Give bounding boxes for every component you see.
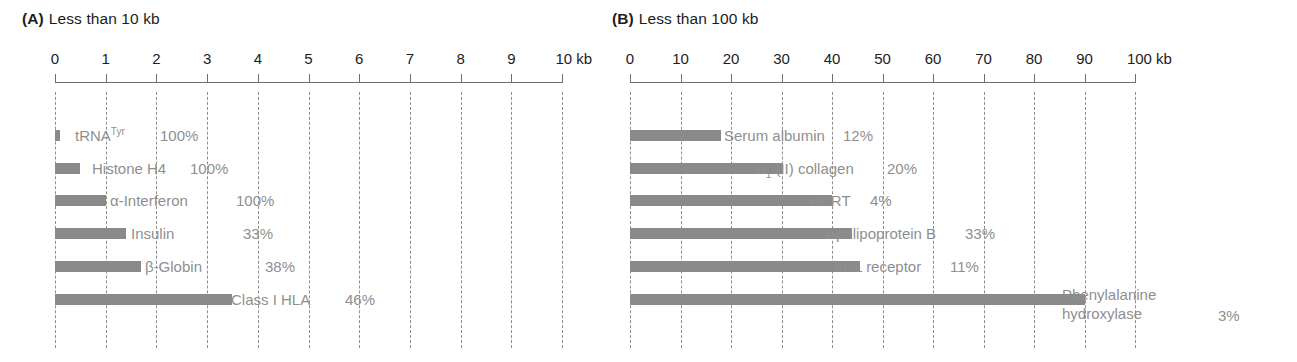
gridline (461, 92, 462, 348)
gridline (933, 92, 934, 348)
x-axis-tick-mark (1135, 74, 1136, 83)
bar-label: Class I HLA (231, 291, 310, 308)
x-axis-tick-label: 30 (773, 50, 790, 67)
x-axis-tick-label: 100 kb (1127, 50, 1172, 67)
bar-percent-label: 100% (190, 160, 228, 177)
x-axis-tick-label: 80 (1026, 50, 1043, 67)
x-axis-tick-label: 70 (975, 50, 992, 67)
x-axis-tick-mark (984, 74, 985, 83)
x-axis-tick-label: 9 (507, 50, 515, 67)
x-axis-tick-label: 0 (51, 50, 59, 67)
bar-percent-label: 20% (887, 160, 917, 177)
x-axis-tick-label: 40 (824, 50, 841, 67)
x-axis-tick-label: 5 (304, 50, 312, 67)
bar-percent-label: 100% (236, 192, 274, 209)
x-axis-tick-mark (933, 74, 934, 83)
x-axis-tick-mark (55, 74, 56, 83)
bar (630, 195, 832, 206)
x-axis-tick-label: 50 (874, 50, 891, 67)
bar-percent-label: 11% (950, 258, 979, 275)
bar-percent-label: 33% (243, 225, 273, 242)
bar (630, 261, 860, 272)
gridline (883, 92, 884, 348)
x-axis-tick-mark (832, 74, 833, 83)
bar-percent-label: 33% (965, 225, 995, 242)
x-axis-tick-mark (106, 74, 107, 83)
panel-a-plot-area: 012345678910 kbtRNATyr100%Histone H4100%… (0, 0, 620, 362)
gridline (258, 92, 259, 348)
panel-b-plot-area: 0102030405060708090100 kbSerum albumin12… (600, 0, 1297, 362)
gridline (207, 92, 208, 348)
x-axis-tick-label: 8 (456, 50, 464, 67)
bar-label: HPRT (810, 192, 851, 209)
gene-size-bar-chart-figure: (A)Less than 10 kb 012345678910 kbtRNATy… (0, 0, 1297, 362)
x-axis-tick-label: 10 (672, 50, 689, 67)
gridline (359, 92, 360, 348)
bar-label: LDL receptor (835, 258, 921, 275)
x-axis-tick-mark (511, 74, 512, 83)
bar (55, 261, 141, 272)
bar-label: α1 (II) collagen (757, 160, 854, 177)
x-axis-tick-mark (258, 74, 259, 83)
x-axis-tick-mark (461, 74, 462, 83)
panel-a: (A)Less than 10 kb 012345678910 kbtRNATy… (0, 0, 620, 362)
x-axis-tick-mark (681, 74, 682, 83)
x-axis-tick-label: 60 (925, 50, 942, 67)
x-axis-tick-mark (309, 74, 310, 83)
bar-percent-label: 100% (160, 127, 198, 144)
x-axis-tick-mark (731, 74, 732, 83)
gridline (562, 92, 563, 348)
bar-label: tRNATyr (75, 127, 125, 144)
x-axis-tick-label: 6 (355, 50, 363, 67)
bar (55, 294, 232, 305)
x-axis-tick-label: 10 kb (555, 50, 592, 67)
bar-percent-label: 46% (345, 291, 375, 308)
x-axis-tick-label: 4 (254, 50, 262, 67)
bar-percent-label: 12% (843, 127, 873, 144)
x-axis-tick-label: 7 (406, 50, 414, 67)
bar-label: Histone H4 (92, 160, 166, 177)
x-axis-tick-mark (782, 74, 783, 83)
panel-b: (B)Less than 100 kb 01020304050607080901… (600, 0, 1297, 362)
bar-label: Phenylalaninehydroxylase (1062, 285, 1156, 323)
x-axis-tick-mark (156, 74, 157, 83)
bar (55, 195, 106, 206)
bar-label: Serum albumin (724, 127, 825, 144)
bar (55, 163, 80, 174)
gridline (832, 92, 833, 348)
x-axis-tick-mark (410, 74, 411, 83)
bar-label: Apolipoprotein B (826, 225, 936, 242)
x-axis-tick-label: 2 (152, 50, 160, 67)
bar (630, 294, 1085, 305)
x-axis-tick-mark (630, 74, 631, 83)
bar (55, 228, 126, 239)
bar-percent-label: 4% (870, 192, 892, 209)
x-axis-tick-mark (883, 74, 884, 83)
bar (630, 228, 852, 239)
x-axis-tick-mark (207, 74, 208, 83)
bar-label: α-Interferon (110, 192, 188, 209)
gridline (410, 92, 411, 348)
x-axis-tick-label: 90 (1076, 50, 1093, 67)
x-axis-tick-mark (562, 74, 563, 83)
x-axis-tick-mark (1085, 74, 1086, 83)
x-axis-tick-label: 20 (723, 50, 740, 67)
bar-label: Insulin (131, 225, 174, 242)
x-axis-tick-label: 0 (626, 50, 634, 67)
gridline (156, 92, 157, 348)
x-axis-tick-mark (359, 74, 360, 83)
x-axis-tick-mark (1034, 74, 1035, 83)
gridline (984, 92, 985, 348)
bar-percent-label: 3% (1218, 307, 1240, 324)
bar-label: β-Globin (145, 258, 202, 275)
x-axis-tick-label: 3 (203, 50, 211, 67)
gridline (309, 92, 310, 348)
x-axis-tick-label: 1 (102, 50, 110, 67)
gridline (1034, 92, 1035, 348)
gridline (511, 92, 512, 348)
bar-percent-label: 38% (265, 258, 295, 275)
bar (55, 130, 60, 141)
bar (630, 130, 721, 141)
